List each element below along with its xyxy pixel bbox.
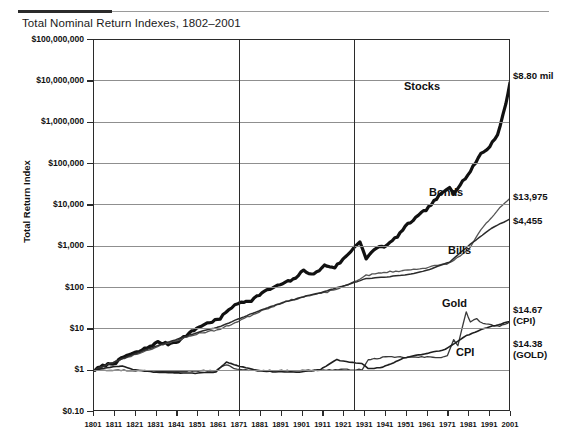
end-label-stocks: $8.80 mil: [513, 70, 554, 81]
x-tick-mark: [489, 411, 490, 416]
x-tick-mark: [322, 411, 323, 416]
y-tick-label: $1: [0, 364, 84, 374]
x-tick-mark: [218, 411, 219, 416]
x-tick-mark: [176, 411, 177, 416]
x-tick-mark: [343, 411, 344, 416]
plot-frame: [93, 39, 510, 411]
chart-figure: Total Nominal Return Indexes, 1802–2001 …: [0, 0, 563, 438]
y-tick-label: $0.10: [0, 406, 84, 416]
x-tick-mark: [281, 411, 282, 416]
x-tick-mark: [260, 411, 261, 416]
end-label-bonds: $13,975: [513, 191, 548, 202]
x-tick-mark: [468, 411, 469, 416]
series-label-cpi: CPI: [456, 346, 474, 358]
x-tick-mark: [135, 411, 136, 416]
header-rule-thin: [112, 11, 549, 12]
end-label-gold: $14.38(GOLD): [513, 338, 547, 360]
x-tick-mark: [93, 411, 94, 416]
x-tick-mark: [156, 411, 157, 416]
x-tick-mark: [197, 411, 198, 416]
end-label-cpi-caption: (CPI): [513, 315, 542, 326]
x-tick-mark: [406, 411, 407, 416]
y-tick-label: $10,000: [0, 199, 84, 209]
end-label-bills: $4,455: [513, 215, 542, 226]
y-tick-label: $100: [0, 282, 84, 292]
end-label-gold-caption: (GOLD): [513, 349, 547, 360]
x-tick-mark: [385, 411, 386, 416]
x-tick-label: 2001: [494, 420, 526, 429]
y-tick-label: $100,000,000: [0, 34, 84, 44]
y-tick-label: $100,000: [0, 158, 84, 168]
header-rule-thick: [18, 10, 112, 13]
end-label-cpi: $14.67(CPI): [513, 304, 542, 326]
series-label-bonds: Bonds: [429, 186, 463, 198]
y-tick-label: $10,000,000: [0, 75, 84, 85]
x-tick-mark: [114, 411, 115, 416]
plot-area: [93, 39, 510, 411]
series-label-gold: Gold: [442, 297, 467, 309]
x-tick-mark: [364, 411, 365, 416]
x-tick-mark: [302, 411, 303, 416]
x-tick-mark: [239, 411, 240, 416]
x-tick-mark: [447, 411, 448, 416]
y-tick-label: $1,000,000: [0, 116, 84, 126]
page-title: Total Nominal Return Indexes, 1802–2001: [22, 17, 241, 29]
series-label-bills: Bills: [448, 244, 471, 256]
x-tick-mark: [510, 411, 511, 416]
y-tick-label: $10: [0, 323, 84, 333]
y-tick-label: $1,000: [0, 240, 84, 250]
end-label-cpi-value: $14.67: [513, 304, 542, 315]
x-tick-mark: [427, 411, 428, 416]
series-label-stocks: Stocks: [404, 80, 440, 92]
end-label-gold-value: $14.38: [513, 338, 542, 349]
